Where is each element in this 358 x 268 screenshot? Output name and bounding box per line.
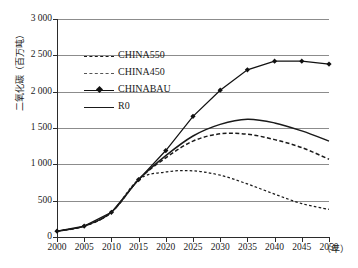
- chart-legend: CHINA550 CHINA450 CHINABAU R0: [84, 48, 204, 116]
- y-tick-label: 1 000: [8, 159, 52, 169]
- legend-swatch-dashed: [84, 56, 114, 58]
- legend-label: CHINABAU: [118, 83, 171, 94]
- series-line-china550: [57, 133, 329, 231]
- data-point-marker: [272, 59, 277, 64]
- legend-item-chinabau: CHINABAU: [84, 82, 204, 99]
- legend-item-china550: CHINA550: [84, 48, 204, 65]
- legend-swatch-solid: [84, 107, 114, 109]
- y-tick-label: 0: [8, 232, 52, 242]
- series-line-r0: [57, 119, 329, 231]
- legend-label: CHINA550: [118, 49, 165, 60]
- y-tick-label: 500: [8, 196, 52, 206]
- data-point-marker: [326, 61, 331, 66]
- y-tick-label: 2 000: [8, 87, 52, 97]
- x-axis-unit-label: （年）: [322, 242, 349, 255]
- legend-label: R0: [118, 100, 130, 111]
- data-point-marker: [299, 59, 304, 64]
- co2-emissions-line-chart: 二氧化碳（百万吨） 3 0002 5002 0001 5001 0005000 …: [0, 0, 358, 268]
- legend-item-china450: CHINA450: [84, 65, 204, 82]
- legend-label: CHINA450: [118, 66, 165, 77]
- y-tick-label: 3 000: [8, 14, 52, 24]
- y-axis-tick-labels: 3 0002 5002 0001 5001 0005000: [0, 0, 52, 268]
- series-line-china450: [57, 171, 329, 232]
- legend-swatch-dotted: [84, 73, 114, 75]
- y-tick-label: 2 500: [8, 50, 52, 60]
- legend-item-r0: R0: [84, 99, 204, 116]
- y-tick-label: 1 500: [8, 123, 52, 133]
